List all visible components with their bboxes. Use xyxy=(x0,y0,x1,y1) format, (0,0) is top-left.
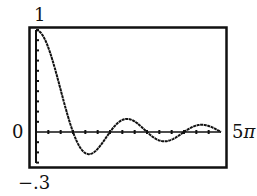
function-curve xyxy=(36,30,221,154)
plot-frame xyxy=(30,28,227,168)
plot-area xyxy=(0,0,257,196)
y-zero-label: 0 xyxy=(12,123,23,141)
y-max-label: 1 xyxy=(34,6,45,24)
pi-symbol: π xyxy=(243,121,255,142)
x-max-label: 5π xyxy=(232,123,255,141)
y-min-label: −.3 xyxy=(18,174,50,192)
x-max-number: 5 xyxy=(232,121,243,142)
